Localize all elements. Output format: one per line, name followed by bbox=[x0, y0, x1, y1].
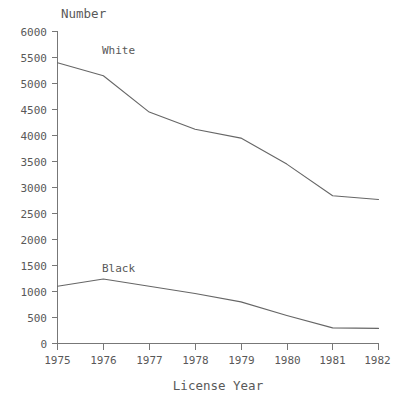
series-label-black: Black bbox=[102, 262, 135, 275]
y-tick-label: 6000 bbox=[21, 26, 48, 39]
x-tick-label: 1975 bbox=[44, 354, 71, 367]
line-chart: Number 0 500 1000 1500 2000 bbox=[0, 0, 397, 402]
x-tick-label: 1979 bbox=[228, 354, 255, 367]
y-tick-label: 1500 bbox=[21, 260, 48, 273]
series-line-white bbox=[58, 63, 379, 200]
y-tick-label: 0 bbox=[40, 338, 47, 351]
chart-canvas: Number 0 500 1000 1500 2000 bbox=[0, 0, 397, 402]
y-tick-label: 4500 bbox=[21, 104, 48, 117]
y-tick-label: 2000 bbox=[21, 234, 48, 247]
x-axis-title: License Year bbox=[173, 378, 264, 393]
y-tick-label: 3000 bbox=[21, 182, 48, 195]
y-tick-label: 5000 bbox=[21, 78, 48, 91]
y-tick-label: 2500 bbox=[21, 208, 48, 221]
series-line-black bbox=[58, 279, 379, 328]
y-axis-labels: 0 500 1000 1500 2000 2500 3000 3500 4000… bbox=[21, 26, 48, 351]
x-tick-label: 1976 bbox=[90, 354, 117, 367]
x-tick-label: 1981 bbox=[319, 354, 346, 367]
y-tick-label: 500 bbox=[27, 312, 47, 325]
x-axis-ticks bbox=[58, 344, 379, 350]
x-tick-label: 1977 bbox=[136, 354, 163, 367]
x-tick-label: 1980 bbox=[274, 354, 301, 367]
x-tick-label: 1982 bbox=[364, 354, 391, 367]
y-tick-label: 1000 bbox=[21, 286, 48, 299]
y-tick-label: 5500 bbox=[21, 52, 48, 65]
y-tick-label: 4000 bbox=[21, 130, 48, 143]
y-axis-title: Number bbox=[61, 6, 107, 21]
series-label-white: White bbox=[102, 44, 135, 57]
x-tick-label: 1978 bbox=[182, 354, 209, 367]
y-tick-label: 3500 bbox=[21, 156, 48, 169]
x-axis-labels: 1975 1976 1977 1978 1979 1980 1981 1982 bbox=[44, 354, 391, 367]
y-axis-ticks bbox=[52, 32, 58, 344]
